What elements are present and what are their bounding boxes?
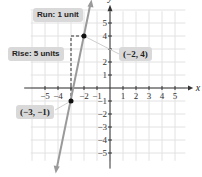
y-tick-label: 4	[103, 31, 108, 41]
y-tick-label: 5	[103, 18, 108, 28]
line-arrow-down-icon	[54, 166, 60, 174]
x-tick-label: −5	[40, 91, 50, 101]
y-axis-label: y	[107, 0, 113, 3]
point-lower-callout: (−3, −1)	[16, 105, 54, 119]
y-tick-label: 2	[103, 57, 108, 67]
slope-line	[57, 4, 91, 169]
y-tick-label: −1	[97, 96, 107, 106]
y-tick-label: −4	[97, 135, 107, 145]
data-point	[82, 34, 87, 39]
x-tick-label: 4	[160, 91, 165, 101]
x-tick-label: 1	[121, 91, 126, 101]
y-tick-label: −5	[97, 148, 107, 158]
y-tick-label: 1	[103, 70, 108, 80]
axes: xy	[24, 0, 201, 169]
y-tick-label: −2	[97, 109, 107, 119]
y-axis-arrow-icon	[108, 5, 113, 12]
x-tick-label: 5	[173, 91, 178, 101]
x-axis-label: x	[195, 82, 201, 93]
data-point	[69, 99, 74, 104]
line-arrow-up-icon	[88, 0, 94, 8]
run-callout: Run: 1 unit	[33, 8, 83, 22]
x-tick-label: 2	[134, 91, 139, 101]
x-tick-label: −4	[53, 91, 63, 101]
y-tick-label: −3	[97, 122, 107, 132]
x-tick-label: 3	[147, 91, 152, 101]
x-axis-arrow-icon	[188, 86, 193, 91]
point-upper-callout: (−2, 4)	[119, 47, 152, 61]
grid-lines	[31, 10, 186, 161]
coordinate-graph: xy −5−4−2−112345−5−4−3−2−11245	[0, 0, 202, 177]
plotted-line	[54, 0, 121, 174]
x-tick-label: −2	[79, 91, 89, 101]
rise-callout: Rise: 5 units	[8, 47, 64, 61]
